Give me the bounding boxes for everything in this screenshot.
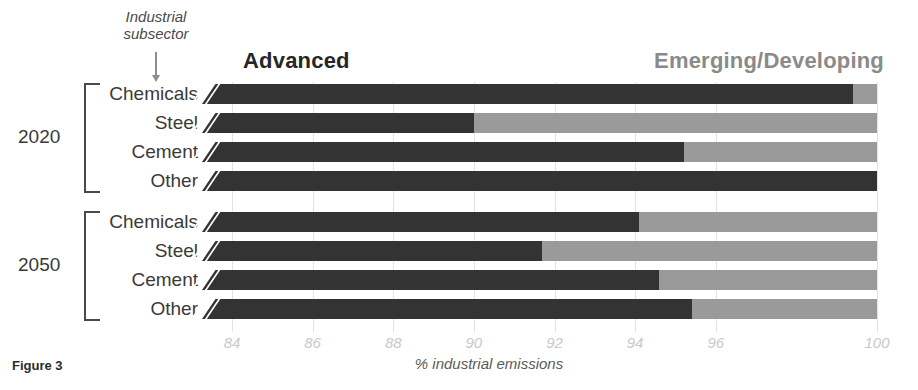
industrial-subsector-annotation: Industrial subsector [96,8,216,42]
stacked-bar [232,84,877,104]
category-label-cement-2050: Cement [48,270,198,290]
table-row [232,113,877,133]
legend-advanced-label: Advanced [243,48,350,74]
bar-segment-advanced [232,142,684,162]
table-row [232,212,877,232]
table-row [232,142,877,162]
bar-segment-advanced [232,171,877,191]
x-tick-label: 100 [864,334,889,351]
bar-segment-advanced [232,113,474,133]
table-row [232,171,877,191]
bar-segment-advanced [232,241,542,261]
table-row [232,270,877,290]
table-row [232,84,877,104]
annotation-line-2: subsector [96,25,216,42]
stacked-bar [232,171,877,191]
stacked-bar [232,113,877,133]
figure-3-chart: Industrial subsector Advanced Emerging/D… [0,0,918,390]
x-tick-label: 86 [304,334,321,351]
x-tick-label: 88 [385,334,402,351]
x-tick-label: 96 [707,334,724,351]
annotation-line-1: Industrial [96,8,216,25]
plot-area [232,82,877,332]
category-label-chemicals-2020: Chemicals [48,84,198,104]
category-label-steel-2050: Steel [48,241,198,261]
x-axis-title: % industrial emissions [0,355,918,372]
bar-group-2020 [232,82,877,192]
bar-segment-advanced [232,270,659,290]
category-label-other-2020: Other [48,171,198,191]
figure-caption: Figure 3 [12,358,63,373]
bar-segment-advanced [232,84,853,104]
legend-emerging-label: Emerging/Developing [654,48,884,74]
x-tick-label: 90 [466,334,483,351]
category-label-other-2050: Other [48,299,198,319]
table-row [232,241,877,261]
gridline [877,82,878,332]
bar-group-2050 [232,210,877,320]
bar-segment-advanced [232,212,639,232]
table-row [232,299,877,319]
stacked-bar [232,270,877,290]
stacked-bar [232,241,877,261]
stacked-bar [232,212,877,232]
category-label-cement-2020: Cement [48,142,198,162]
stacked-bar [232,142,877,162]
x-tick-label: 84 [224,334,241,351]
bar-segment-advanced [232,299,692,319]
x-tick-label: 92 [546,334,563,351]
x-tick-label: 94 [627,334,644,351]
category-label-chemicals-2050: Chemicals [48,212,198,232]
down-arrow-icon [155,52,157,76]
category-label-steel-2020: Steel [48,113,198,133]
stacked-bar [232,299,877,319]
